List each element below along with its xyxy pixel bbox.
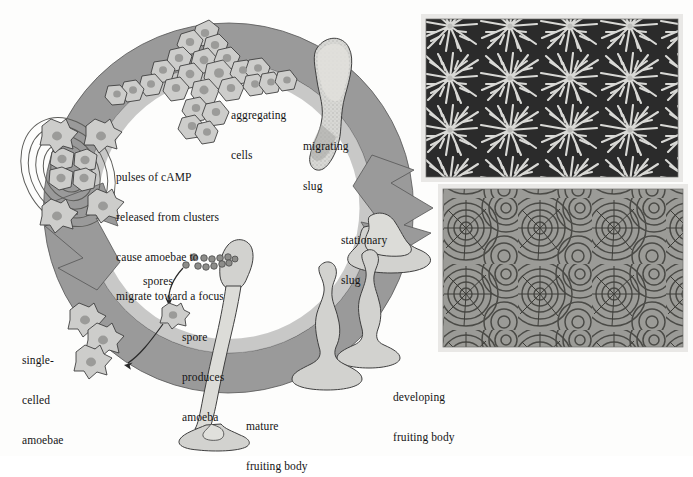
label-stationary-slug: stationary slug [341, 208, 387, 300]
camp-spiral-waves-micrograph [438, 184, 688, 352]
label-single-celled-amoebae: single- celled amoebae [22, 328, 64, 460]
label-aggregating-cells: aggregating cells [231, 83, 286, 175]
aggregation-streams-micrograph [421, 14, 683, 182]
label-developing-fruiting-body: developing fruiting body [393, 365, 455, 457]
label-migrating-slug: migrating slug [303, 114, 349, 206]
label-mature-fruiting-body: mature fruiting body [246, 394, 308, 477]
label-spore-produces-amoeba: spore produces amoeba [182, 305, 224, 437]
label-camp-pulses: pulses of cAMP released from clusters ca… [116, 145, 224, 317]
